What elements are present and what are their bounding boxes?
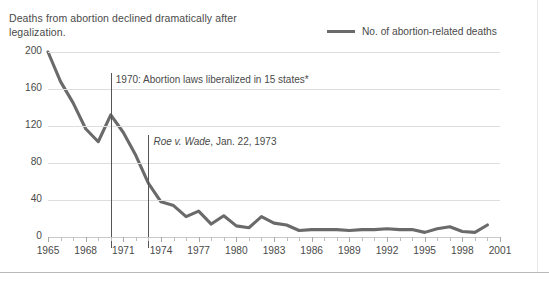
annotation-roe-rest: , Jan. 22, 1973 [210,136,276,147]
bottom-border [0,272,549,273]
x-axis-tick-1996 [437,237,438,241]
x-axis-tick-1966 [61,237,62,241]
x-axis-tick-1993 [400,237,401,241]
chart-footnote [12,281,432,291]
x-axis-tick-1979 [224,237,225,241]
y-axis-label-0: 0 [8,230,42,241]
chart-figure: Deaths from abortion declined dramatical… [0,0,549,291]
x-axis-tick-1995 [425,237,426,242]
x-axis-label-1989: 1989 [329,245,369,256]
x-axis-tick-1989 [349,237,350,242]
x-axis-tick-1969 [98,237,99,241]
annotation-label-1970: 1970: Abortion laws liberalized in 15 st… [116,74,309,85]
y-axis-label-160: 160 [8,82,42,93]
x-axis-tick-1999 [475,237,476,241]
x-axis-tick-1986 [312,237,313,242]
annotation-line-roe [148,135,149,248]
x-axis-tick-1988 [337,237,338,241]
x-axis-label-1995: 1995 [405,245,445,256]
legend-swatch-deaths [327,30,355,33]
x-axis-tick-1987 [324,237,325,241]
x-axis-tick-1970 [111,237,112,241]
annotation-roe-italic: Roe v. Wade [153,136,210,147]
x-axis-tick-1973 [148,237,149,241]
x-axis-tick-1974 [161,237,162,242]
chart-legend: No. of abortion-related deaths [327,26,497,37]
x-axis-tick-2000 [487,237,488,241]
x-axis-label-1971: 1971 [103,245,143,256]
x-axis-label-1977: 1977 [179,245,219,256]
x-axis-tick-1985 [299,237,300,241]
x-axis-tick-1977 [199,237,200,242]
x-axis-tick-1992 [387,237,388,242]
x-axis-tick-1980 [236,237,237,242]
legend-label-deaths: No. of abortion-related deaths [362,26,497,37]
x-axis-tick-1984 [287,237,288,241]
x-axis-label-1983: 1983 [254,245,294,256]
x-axis-tick-1978 [211,237,212,241]
right-border [537,0,538,272]
gridline-y-160 [48,89,500,90]
annotation-label-roe: Roe v. Wade, Jan. 22, 1973 [153,136,276,147]
x-axis-tick-1997 [450,237,451,241]
y-axis-label-40: 40 [8,193,42,204]
annotation-line-1970 [111,73,112,248]
x-axis-tick-2001 [500,237,501,242]
x-axis-label-2001: 2001 [480,245,520,256]
y-axis-label-120: 120 [8,119,42,130]
y-axis-label-200: 200 [8,45,42,56]
x-axis-label-1974: 1974 [141,245,181,256]
gridline-y-120 [48,126,500,127]
x-axis-tick-1976 [186,237,187,241]
x-axis-label-1998: 1998 [442,245,482,256]
gridline-y-200 [48,52,500,53]
x-axis-tick-1994 [412,237,413,241]
x-axis-tick-1965 [48,237,49,242]
x-axis-tick-1972 [136,237,137,241]
gridline-y-40 [48,200,500,201]
x-axis-tick-1971 [123,237,124,242]
x-axis-tick-1998 [462,237,463,242]
x-axis-tick-1982 [261,237,262,241]
y-axis-label-80: 80 [8,156,42,167]
x-axis-label-1965: 1965 [28,245,68,256]
x-axis-tick-1983 [274,237,275,242]
x-axis-label-1968: 1968 [66,245,106,256]
x-axis-tick-1975 [174,237,175,241]
x-axis-tick-1968 [86,237,87,242]
x-axis-tick-1990 [362,237,363,241]
chart-title: Deaths from abortion declined dramatical… [9,12,289,39]
x-axis-tick-1967 [73,237,74,241]
x-axis-label-1986: 1986 [292,245,332,256]
gridline-y-80 [48,163,500,164]
x-axis-label-1980: 1980 [216,245,256,256]
x-axis-tick-1981 [249,237,250,241]
x-axis-tick-1991 [374,237,375,241]
x-axis-label-1992: 1992 [367,245,407,256]
